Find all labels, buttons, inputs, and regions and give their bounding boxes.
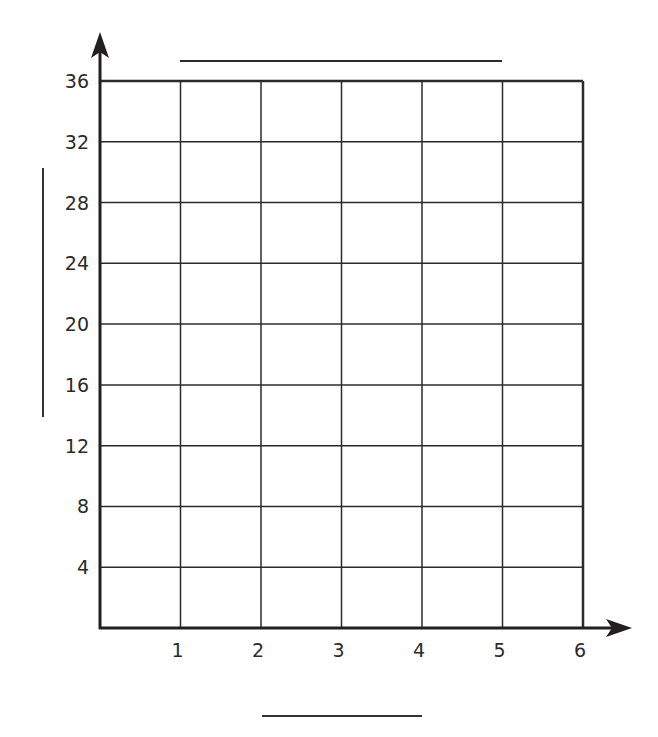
x-tick-label: 6: [574, 639, 586, 661]
y-tick-label: 16: [65, 374, 89, 396]
x-tick-label: 4: [413, 639, 425, 661]
plot-grid: [100, 81, 583, 628]
y-tick-label: 8: [77, 495, 89, 517]
x-tick-label: 5: [493, 639, 505, 661]
x-tick-label: 3: [332, 639, 344, 661]
y-tick-label: 20: [65, 313, 89, 335]
y-tick-label: 24: [65, 252, 89, 274]
y-tick-label: 28: [65, 192, 89, 214]
y-tick-label: 32: [65, 131, 89, 153]
x-tick-label: 2: [252, 639, 264, 661]
x-tick-labels: 123456: [171, 639, 586, 661]
y-tick-label: 12: [65, 435, 89, 457]
y-tick-labels: 4812162024283236: [65, 70, 89, 578]
y-tick-label: 36: [65, 70, 89, 92]
blank-grid-chart: 4812162024283236 123456: [0, 0, 658, 737]
y-tick-label: 4: [77, 556, 89, 578]
x-tick-label: 1: [171, 639, 183, 661]
